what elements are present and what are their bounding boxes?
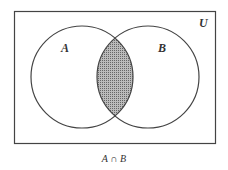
set-b-label: B: [157, 41, 166, 55]
universe-label: U: [199, 16, 209, 30]
caption: A ∩ B: [0, 153, 228, 164]
venn-diagram: U A B: [0, 0, 228, 170]
set-a-label: A: [60, 41, 69, 55]
